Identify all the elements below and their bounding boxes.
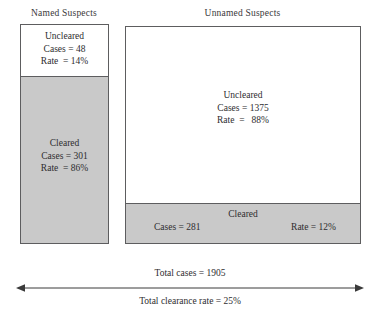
total-clearance-rate-label: Total clearance rate = 25%: [18, 296, 362, 306]
segment-named-cleared-rate: Rate = 86%: [21, 162, 108, 175]
column-heading-named-suspects: Named Suspects: [20, 8, 108, 18]
segment-unnamed-uncleared-rate: Rate = 88%: [126, 114, 360, 127]
segment-named-cleared-label: Cleared: [21, 137, 108, 150]
total-span-double-arrow-icon: [16, 281, 364, 295]
segment-named-uncleared-label: Uncleared: [21, 30, 108, 43]
segment-unnamed-uncleared: Uncleared Cases = 1375 Rate = 88%: [126, 27, 360, 204]
mosaic-column-named-suspects: Uncleared Cases = 48 Rate = 14% Cleared …: [20, 24, 109, 244]
segment-named-cleared-cases: Cases = 301: [21, 150, 108, 163]
segment-unnamed-uncleared-text: Uncleared Cases = 1375 Rate = 88%: [126, 89, 360, 127]
segment-unnamed-cleared-cases: Cases = 281: [154, 222, 201, 232]
mosaic-column-unnamed-suspects: Uncleared Cases = 1375 Rate = 88% Cleare…: [125, 26, 361, 244]
column-heading-unnamed-suspects: Unnamed Suspects: [125, 8, 360, 18]
segment-unnamed-cleared: Cleared Cases = 281 Rate = 12%: [126, 204, 360, 243]
segment-named-cleared: Cleared Cases = 301 Rate = 86%: [21, 77, 108, 243]
segment-unnamed-cleared-rate: Rate = 12%: [291, 222, 336, 232]
segment-named-cleared-text: Cleared Cases = 301 Rate = 86%: [21, 137, 108, 175]
segment-unnamed-uncleared-label: Uncleared: [126, 89, 360, 102]
total-cases-label: Total cases = 1905: [18, 268, 362, 278]
segment-unnamed-cleared-label: Cleared: [126, 208, 360, 221]
segment-named-uncleared-text: Uncleared Cases = 48 Rate = 14%: [21, 30, 108, 68]
segment-named-uncleared-rate: Rate = 14%: [21, 55, 108, 68]
segment-named-uncleared: Uncleared Cases = 48 Rate = 14%: [21, 25, 108, 77]
segment-unnamed-uncleared-cases: Cases = 1375: [126, 102, 360, 115]
segment-named-uncleared-cases: Cases = 48: [21, 43, 108, 56]
